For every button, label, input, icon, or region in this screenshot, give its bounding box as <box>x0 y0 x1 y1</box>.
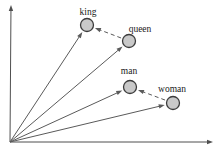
analogy-arrow-queen-king-arrowhead <box>95 28 101 32</box>
label-man: man <box>121 66 138 76</box>
diagram-svg: kingqueenmanwoman <box>0 0 222 154</box>
node-woman <box>167 97 180 110</box>
label-queen: queen <box>129 24 152 34</box>
node-king <box>81 19 94 32</box>
vector-king-arrowhead <box>77 32 82 38</box>
label-king: king <box>80 7 97 17</box>
analogy-arrow-queen-king <box>98 29 121 38</box>
vector-queen <box>10 48 120 142</box>
x-axis-arrowhead <box>207 140 213 144</box>
vector-diagram: kingqueenmanwoman <box>0 0 222 154</box>
analogy-arrow-woman-man-arrowhead <box>138 90 144 94</box>
vector-man-arrowhead <box>116 91 122 95</box>
node-queen <box>123 35 136 48</box>
label-woman: woman <box>158 84 186 94</box>
vector-woman <box>10 106 162 142</box>
y-axis <box>10 8 11 142</box>
node-man <box>124 81 137 94</box>
vector-woman-arrowhead <box>158 104 164 108</box>
y-axis-arrowhead <box>9 5 13 11</box>
